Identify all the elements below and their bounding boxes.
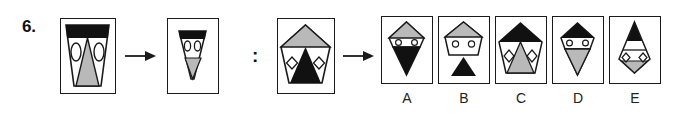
option-a[interactable] [381, 16, 433, 84]
bottom-triangle [565, 49, 590, 75]
relation-separator: : [252, 46, 258, 65]
top-band [281, 25, 330, 47]
bottom-triangle [622, 61, 648, 73]
question-number: 6. [22, 17, 36, 37]
source-reduced-figure [168, 19, 217, 92]
top-band [627, 22, 642, 41]
top-band [499, 23, 542, 42]
option-e[interactable] [609, 16, 661, 84]
top-band [389, 22, 424, 38]
arrow-1 [123, 48, 157, 64]
option-c-figure [496, 17, 545, 82]
bottom-triangle [451, 57, 476, 76]
eye-left [452, 41, 458, 47]
eye-right [583, 40, 589, 46]
option-a-label: A [381, 90, 433, 106]
eye-right [468, 41, 474, 47]
eye-right [412, 40, 418, 46]
option-a-figure [382, 17, 431, 82]
option-d-figure [553, 17, 602, 82]
bottom-triangle [393, 47, 420, 75]
analogy-puzzle: 6. [0, 0, 690, 115]
option-e-figure [610, 17, 659, 82]
top-band [179, 31, 206, 39]
panel-term-c[interactable] [277, 18, 335, 94]
option-b-label: B [438, 90, 490, 106]
option-c[interactable] [495, 16, 547, 84]
panel-term-a[interactable] [60, 18, 116, 94]
eye-right [194, 41, 200, 51]
eye-right [94, 43, 104, 61]
top-band [445, 22, 482, 37]
option-d[interactable] [552, 16, 604, 84]
panel-term-b[interactable] [167, 18, 219, 94]
target-full-figure [278, 19, 333, 92]
top-band [561, 23, 594, 38]
option-b-figure [439, 17, 488, 82]
eye-left [567, 40, 573, 46]
top-band [66, 25, 109, 38]
source-full-figure [61, 19, 114, 92]
arrow-2 [341, 48, 375, 64]
option-c-label: C [495, 90, 547, 106]
eye-left [71, 43, 81, 61]
eye-left [396, 40, 402, 46]
option-e-label: E [609, 90, 661, 106]
option-d-label: D [552, 90, 604, 106]
option-b[interactable] [438, 16, 490, 84]
eye-left [184, 41, 190, 51]
center-triangle [185, 58, 201, 79]
